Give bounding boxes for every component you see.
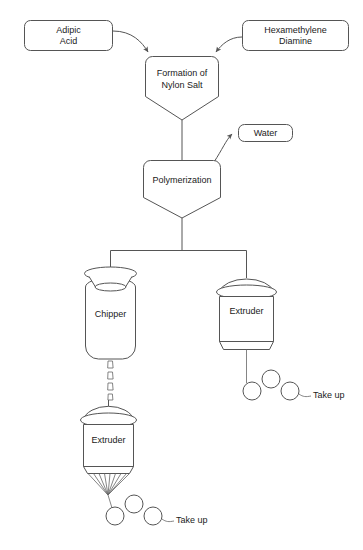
extruder-right-label: Extruder: [229, 306, 263, 316]
nylon-salt-label-line1: Formation of: [157, 68, 208, 78]
process-flow-diagram: Adipic Acid Hexamethylene Diamine Format…: [0, 0, 363, 550]
arrow-polymerization-to-water: [214, 134, 232, 162]
water-label: Water: [254, 128, 278, 138]
roller-right-2: [262, 370, 280, 388]
extruder-bottom-body: [84, 425, 134, 467]
take-up-right: Take up: [243, 350, 345, 401]
extruder-bottom-base: [84, 467, 134, 474]
chip-4: [108, 394, 113, 400]
extruder-right-base: [220, 342, 274, 350]
take-up-bottom: Take up: [106, 495, 208, 525]
chip-stream: [108, 361, 113, 400]
fiber-extruder-bottom: [108, 495, 112, 508]
node-nylon-salt[interactable]: Formation of Nylon Salt: [146, 57, 219, 121]
adipic-acid-label-line1: Adipic: [56, 25, 81, 35]
roller-bottom-2: [125, 495, 143, 513]
chipper-label: Chipper: [95, 309, 127, 319]
hexamethylene-diamine-label-line2: Diamine: [279, 36, 312, 46]
take-up-right-label: Take up: [313, 390, 345, 400]
hexamethylene-diamine-label-line1: Hexamethylene: [264, 25, 327, 35]
chip-2: [108, 372, 113, 379]
chipper-neck-ellipse: [95, 283, 126, 291]
polymerization-label: Polymerization: [152, 175, 211, 185]
roller-bottom-1: [106, 507, 124, 525]
nylon-salt-label-line2: Nylon Salt: [161, 80, 203, 90]
arrow-diamine-to-nylon-salt: [216, 37, 242, 52]
polymerization-vessel: [144, 161, 221, 219]
adipic-acid-label-line2: Acid: [60, 36, 78, 46]
extruder-bottom-label: Extruder: [91, 435, 125, 445]
spinneret-fiber-fan: [88, 474, 130, 496]
fiber-take-up-bottom-tail: [162, 519, 174, 522]
roller-right-3: [281, 382, 299, 400]
roller-bottom-3: [144, 507, 162, 525]
roller-right-1: [243, 382, 261, 400]
node-water[interactable]: Water: [239, 125, 293, 142]
take-up-bottom-label: Take up: [176, 515, 208, 525]
arrow-adipic-to-nylon-salt: [113, 31, 148, 52]
node-hexamethylene-diamine[interactable]: Hexamethylene Diamine: [243, 21, 349, 51]
chip-1: [108, 361, 113, 368]
node-extruder-bottom[interactable]: Extruder: [81, 400, 137, 474]
node-adipic-acid[interactable]: Adipic Acid: [25, 21, 113, 51]
extruder-right-body: [220, 297, 274, 342]
node-extruder-right[interactable]: Extruder: [217, 279, 277, 349]
fiber-take-up-right-tail: [299, 394, 311, 397]
node-chipper[interactable]: Chipper: [85, 267, 137, 359]
node-polymerization[interactable]: Polymerization: [144, 161, 221, 219]
chip-3: [108, 383, 113, 390]
flow-diagram-canvas: Adipic Acid Hexamethylene Diamine Format…: [0, 0, 363, 550]
